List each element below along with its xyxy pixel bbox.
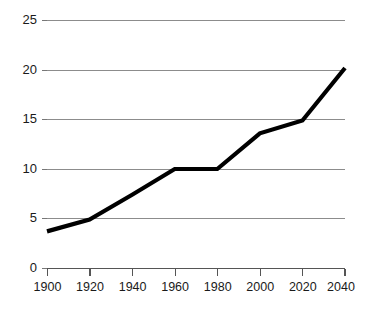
xtick-label-1960: 1960 — [161, 280, 189, 294]
xtick-label-1900: 1900 — [34, 280, 62, 294]
y-axis-tick-marks — [42, 21, 47, 269]
xtick-label-2040: 2040 — [327, 280, 355, 294]
x-axis-labels: 1900 1920 1940 1960 1980 2000 2020 2040 — [34, 280, 355, 294]
ytick-label-20: 20 — [23, 62, 37, 77]
ytick-label-0: 0 — [30, 260, 37, 275]
y-axis-labels: 25 20 15 10 5 0 — [23, 12, 37, 275]
ytick-label-15: 15 — [23, 111, 37, 126]
ytick-label-5: 5 — [30, 210, 37, 225]
chart-canvas: 25 20 15 10 5 0 1900 1920 1940 1960 1980… — [0, 0, 369, 319]
data-series-line — [47, 68, 345, 231]
ytick-label-25: 25 — [23, 12, 37, 27]
xtick-label-1920: 1920 — [76, 280, 104, 294]
ytick-label-10: 10 — [23, 161, 37, 176]
x-axis-tick-marks — [48, 269, 346, 276]
line-chart: 25 20 15 10 5 0 1900 1920 1940 1960 1980… — [0, 0, 369, 319]
xtick-label-2000: 2000 — [246, 280, 274, 294]
xtick-label-1980: 1980 — [204, 280, 232, 294]
xtick-label-1940: 1940 — [119, 280, 147, 294]
xtick-label-2020: 2020 — [289, 280, 317, 294]
